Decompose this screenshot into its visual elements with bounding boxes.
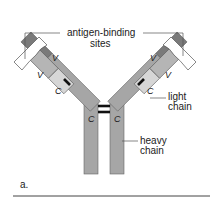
label-light-chain-line2: chain xyxy=(168,101,192,112)
domain-label-heavy-variable-right: V xyxy=(150,53,157,63)
domain-label-light-constant-left: C xyxy=(55,86,62,96)
label-heavy-chain-line2: chain xyxy=(140,145,164,156)
domain-label-heavy-constant-right: C xyxy=(114,114,121,124)
heavy-chain-right-stem xyxy=(110,100,124,174)
domain-label-heavy-constant-left: C xyxy=(88,114,95,124)
domain-label-light-constant-right: C xyxy=(147,86,154,96)
domain-label-heavy-variable-left: V xyxy=(52,53,59,63)
antibody-diagram: V V C V V C C C antigen-binding sites li… xyxy=(0,0,210,197)
domain-label-light-variable-left: V xyxy=(37,70,44,80)
label-antigen-binding-sites-line2: sites xyxy=(90,38,111,49)
heavy-chain-left-stem xyxy=(84,100,98,174)
label-antigen-binding-sites-line1: antigen-binding xyxy=(67,27,135,38)
domain-label-light-variable-right: V xyxy=(165,70,172,80)
panel-label: a. xyxy=(20,179,28,190)
